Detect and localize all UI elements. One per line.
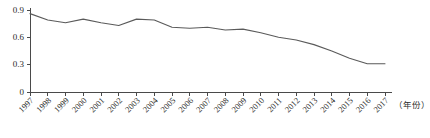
x-axis-tick-label: 2007 bbox=[194, 95, 213, 114]
x-axis-tick-label: 1997 bbox=[16, 95, 35, 114]
x-axis-tick-label: 2013 bbox=[300, 95, 319, 114]
x-axis-tick-label: 1998 bbox=[34, 95, 53, 114]
y-axis-tick-label: 0.3 bbox=[13, 59, 25, 69]
x-axis-tick-label: 2017 bbox=[371, 95, 390, 114]
plot-area bbox=[30, 14, 385, 64]
x-axis-tick-label: 2002 bbox=[105, 95, 124, 114]
x-axis-tick-label: 2011 bbox=[265, 95, 284, 114]
x-axis-tick-label: 2001 bbox=[87, 95, 106, 114]
x-axis-tick-label: 2010 bbox=[247, 95, 266, 114]
x-axis-tick-label: 2016 bbox=[354, 95, 373, 114]
x-axis-tick-labels: 1997199819992000200120022003200420052006… bbox=[16, 95, 390, 115]
line-chart: 00.30.60.9 19971998199920002001200220032… bbox=[0, 0, 430, 138]
x-axis-tick-label: 2006 bbox=[176, 95, 195, 114]
y-axis-tick-label: 0.9 bbox=[13, 5, 25, 15]
y-axis-tick-label: 0 bbox=[20, 87, 25, 97]
x-axis-tick-label: 2000 bbox=[70, 95, 89, 114]
x-axis-tick-label: 2004 bbox=[141, 95, 161, 115]
x-axis-tick-label: 2003 bbox=[123, 95, 142, 114]
x-axis-tick-label: 2014 bbox=[318, 95, 338, 115]
x-axis-tick-label: 2012 bbox=[283, 95, 302, 114]
x-axis-ticks bbox=[30, 92, 385, 96]
x-axis-tick-label: 1999 bbox=[52, 95, 71, 114]
y-axis: 00.30.60.9 bbox=[13, 5, 30, 97]
x-axis-tick-label: 2015 bbox=[336, 95, 355, 114]
x-axis-caption: （年份） bbox=[394, 100, 430, 110]
x-axis: 1997199819992000200120022003200420052006… bbox=[16, 92, 430, 114]
chart-canvas: 00.30.60.9 19971998199920002001200220032… bbox=[0, 0, 430, 138]
x-axis-tick-label: 2009 bbox=[229, 95, 248, 114]
x-axis-tick-label: 2008 bbox=[212, 95, 231, 114]
x-axis-tick-label: 2005 bbox=[158, 95, 177, 114]
y-axis-tick-label: 0.6 bbox=[13, 32, 25, 42]
data-series-line bbox=[30, 14, 385, 64]
y-axis-tick-labels: 00.30.60.9 bbox=[13, 5, 25, 97]
